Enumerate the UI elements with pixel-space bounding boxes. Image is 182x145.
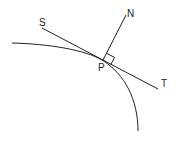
diagram-canvas: S N P T <box>0 0 182 145</box>
curve <box>12 43 138 131</box>
label-n: N <box>127 9 134 19</box>
normal-line-pn <box>103 15 126 60</box>
tangent-line-st <box>42 28 158 89</box>
label-s: S <box>39 18 46 28</box>
label-p: P <box>98 63 105 73</box>
label-t: T <box>161 79 167 89</box>
diagram-svg <box>0 0 182 145</box>
